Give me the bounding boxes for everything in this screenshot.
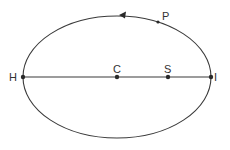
label-p: P (162, 10, 169, 22)
label-s: S (164, 63, 171, 75)
point-c (115, 75, 119, 79)
point-h (21, 75, 25, 79)
label-i: I (214, 71, 217, 83)
orbit-diagram: H C S I P (0, 0, 230, 150)
point-i (209, 75, 213, 79)
label-h: H (9, 71, 17, 83)
point-s (166, 75, 170, 79)
point-p (156, 20, 159, 23)
label-c: C (113, 63, 121, 75)
direction-arrow-icon (119, 12, 126, 19)
